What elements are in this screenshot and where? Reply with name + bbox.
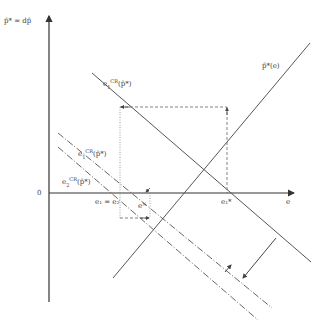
e2-cr-line: [58, 147, 258, 320]
e1-cr-lower-label: e1CR(p̂*): [78, 148, 106, 160]
e1-cr-upper-line: [92, 73, 311, 262]
diagram-canvas: [0, 0, 324, 332]
e1-cr-upper-label: e1CR(p̂*): [103, 78, 131, 90]
arrow-mid: [146, 188, 150, 192]
p-star-e-label: p̂*(e): [262, 62, 280, 70]
e1-star-label: e₁*: [221, 198, 231, 206]
e2-cr-label: e2CR(p̂*): [62, 176, 90, 188]
e-n-label: eᴺ: [138, 202, 146, 210]
x-axis-label: e: [286, 198, 290, 206]
p-star-e-line: [113, 43, 310, 278]
shift-arrow-up: [225, 265, 231, 272]
origin-label: 0: [37, 189, 41, 197]
shift-arrow-down: [243, 238, 276, 278]
e1-eq-e2-label: e₁ = e₂: [95, 198, 119, 206]
y-axis-label: p̂* = dp̂: [4, 17, 31, 25]
